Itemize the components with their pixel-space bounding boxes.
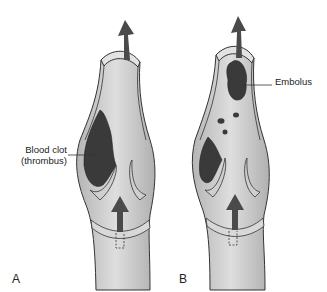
thrombus-label: Blood clot (thrombus): [9, 144, 67, 166]
embolus-clot: [227, 61, 247, 101]
panel-letter-a: A: [12, 272, 20, 286]
panel-a-vein: [68, 20, 155, 290]
thrombus-label-line1: Blood clot: [9, 144, 67, 155]
panel-b-vein: [192, 16, 272, 290]
embolus-label: Embolus: [275, 76, 312, 87]
clot-fragment: [218, 118, 225, 124]
clot-fragment: [233, 113, 239, 118]
clot-fragment: [223, 130, 228, 135]
thrombus-label-line2: (thrombus): [9, 155, 67, 166]
panel-letter-b: B: [179, 272, 187, 286]
